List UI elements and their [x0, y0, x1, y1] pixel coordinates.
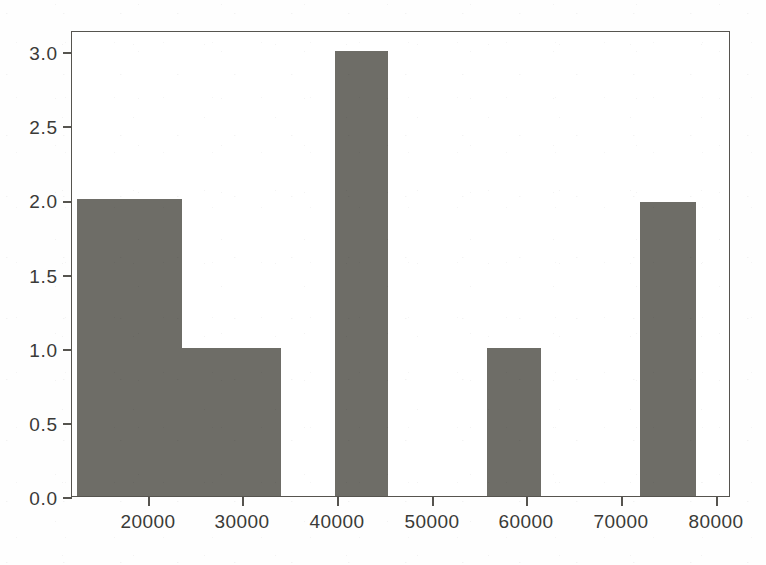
x-tick-label-40000: 40000 [310, 511, 365, 533]
x-tick-mark-50000 [432, 497, 434, 506]
x-tick-label-80000: 80000 [689, 511, 744, 533]
x-tick-label-30000: 30000 [215, 511, 270, 533]
plot-frame [71, 31, 730, 497]
x-tick-label-50000: 50000 [405, 511, 460, 533]
y-tick-label-0-5: 0.5 [2, 414, 58, 436]
histogram-bar[interactable] [77, 199, 182, 496]
x-tick-mark-70000 [621, 497, 623, 506]
x-tick-mark-60000 [526, 497, 528, 506]
x-tick-mark-20000 [148, 497, 150, 506]
histogram-bar[interactable] [182, 348, 282, 496]
x-tick-label-60000: 60000 [499, 511, 554, 533]
histogram-bar[interactable] [335, 51, 388, 496]
y-tick-label-1-0: 1.0 [2, 340, 58, 362]
x-tick-mark-80000 [716, 497, 718, 506]
x-tick-label-70000: 70000 [594, 511, 649, 533]
y-tick-label-2-5: 2.5 [2, 117, 58, 139]
x-tick-mark-30000 [242, 497, 244, 506]
x-tick-label-20000: 20000 [121, 511, 176, 533]
histogram-bar[interactable] [640, 202, 696, 496]
figure-canvas: 3.0 2.5 2.0 1.5 1.0 0.5 0.0 20000 30000 … [0, 0, 766, 565]
plot-area [72, 32, 729, 496]
histogram-bar[interactable] [487, 348, 541, 496]
y-tick-label-2-0: 2.0 [2, 191, 58, 213]
x-tick-mark-40000 [337, 497, 339, 506]
y-tick-label-1-5: 1.5 [2, 266, 58, 288]
y-tick-mark-0-0 [63, 497, 72, 499]
y-tick-label-3-0: 3.0 [2, 43, 58, 65]
y-tick-label-0-0: 0.0 [2, 488, 58, 510]
